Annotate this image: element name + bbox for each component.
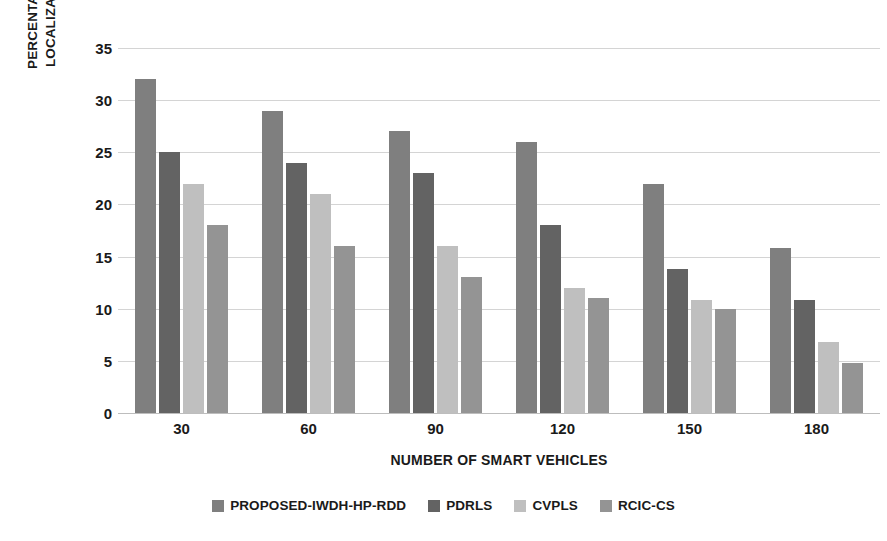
bar (588, 298, 609, 413)
legend-item[interactable]: PROPOSED-IWDH-HP-RDD (212, 498, 406, 513)
bar-group-180 (753, 48, 880, 413)
x-tick-label-60: 60 (300, 420, 317, 437)
bar (691, 300, 712, 413)
bar (262, 111, 283, 413)
legend-item[interactable]: PDRLS (428, 498, 492, 513)
x-axis-tick-labels: 306090120150180 (118, 420, 880, 444)
legend-swatch-icon (212, 500, 224, 512)
bar (286, 163, 307, 413)
bar (334, 246, 355, 413)
x-tick-label-90: 90 (427, 420, 444, 437)
chart-legend: PROPOSED-IWDH-HP-RDDPDRLSCVPLSRCIC-CS (0, 498, 887, 513)
bar (437, 246, 458, 413)
y-axis-title-line-1: PERCENTAGE INCREASE IN (24, 0, 42, 69)
bar (818, 342, 839, 413)
legend-swatch-icon (514, 500, 526, 512)
legend-label: PDRLS (446, 498, 492, 513)
legend-swatch-icon (600, 500, 612, 512)
x-tick-label-120: 120 (550, 420, 575, 437)
bar-group-60 (245, 48, 372, 413)
gridline-0 (118, 413, 880, 414)
legend-label: CVPLS (532, 498, 578, 513)
bar-chart-figure: PERCENTAGE INCREASE IN LOCALIZATION ACCU… (0, 0, 887, 541)
y-tick-label-5: 5 (68, 352, 112, 369)
bar (461, 277, 482, 413)
bar (643, 184, 664, 413)
bar (540, 225, 561, 413)
y-tick-label-0: 0 (68, 405, 112, 422)
legend-label: RCIC-CS (618, 498, 675, 513)
legend-item[interactable]: CVPLS (514, 498, 578, 513)
bar (794, 300, 815, 413)
bar (564, 288, 585, 413)
y-tick-label-35: 35 (68, 40, 112, 57)
plot-area (118, 48, 880, 413)
y-tick-label-30: 30 (68, 92, 112, 109)
y-tick-label-10: 10 (68, 300, 112, 317)
bar (183, 184, 204, 413)
legend-item[interactable]: RCIC-CS (600, 498, 675, 513)
y-axis-tick-labels: 35302520151050 (56, 48, 112, 413)
bar-group-150 (626, 48, 753, 413)
legend-label: PROPOSED-IWDH-HP-RDD (230, 498, 406, 513)
x-axis-title: NUMBER OF SMART VEHICLES (118, 452, 880, 468)
x-tick-label-180: 180 (804, 420, 829, 437)
bar (159, 152, 180, 413)
bar (842, 363, 863, 413)
bar-group-90 (372, 48, 499, 413)
bar (516, 142, 537, 413)
bar (770, 248, 791, 413)
bar (715, 309, 736, 413)
y-tick-label-25: 25 (68, 144, 112, 161)
bar (207, 225, 228, 413)
y-tick-label-15: 15 (68, 248, 112, 265)
bar (310, 194, 331, 413)
x-tick-label-150: 150 (677, 420, 702, 437)
bar (135, 79, 156, 413)
bar (667, 269, 688, 413)
bar (413, 173, 434, 413)
y-tick-label-20: 20 (68, 196, 112, 213)
bar (389, 131, 410, 413)
bars-layer (118, 48, 880, 413)
bar-group-30 (118, 48, 245, 413)
x-tick-label-30: 30 (173, 420, 190, 437)
bar-group-120 (499, 48, 626, 413)
legend-swatch-icon (428, 500, 440, 512)
